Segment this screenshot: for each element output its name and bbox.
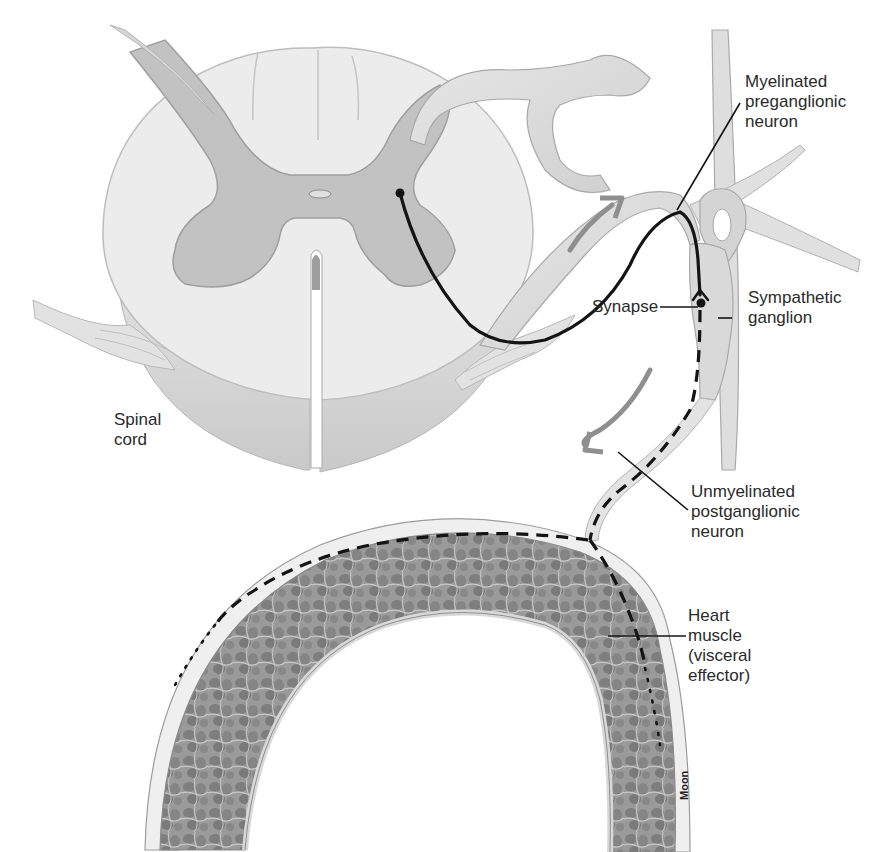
- label-line: Myelinated: [745, 72, 846, 92]
- label-line: postganglionic: [691, 502, 800, 522]
- label-line: muscle: [688, 626, 751, 646]
- label-line: (visceral: [688, 646, 751, 666]
- label-line: neuron: [745, 112, 846, 132]
- label-line: Synapse: [592, 297, 658, 317]
- spinal-cord: [103, 40, 533, 472]
- label-postganglionic-neuron: Unmyelinated postganglionic neuron: [691, 482, 800, 542]
- heart-muscle: [145, 519, 690, 852]
- label-synapse: Synapse: [592, 297, 658, 317]
- label-spinal-cord: Spinal cord: [114, 410, 161, 450]
- label-line: Sympathetic: [748, 288, 842, 308]
- label-sympathetic-ganglion: Sympathetic ganglion: [748, 288, 842, 328]
- label-line: neuron: [691, 522, 800, 542]
- label-line: ganglion: [748, 308, 842, 328]
- label-line: preganglionic: [745, 92, 846, 112]
- artist-credit: Moon: [678, 771, 690, 800]
- label-line: cord: [114, 430, 161, 450]
- label-line: Heart: [688, 606, 751, 626]
- label-preganglionic-neuron: Myelinated preganglionic neuron: [745, 72, 846, 132]
- label-line: effector): [688, 666, 751, 686]
- label-line: Spinal: [114, 410, 161, 430]
- label-line: Unmyelinated: [691, 482, 800, 502]
- label-heart-muscle: Heart muscle (visceral effector): [688, 606, 751, 686]
- arrow-impulse-toward-heart: [584, 370, 650, 452]
